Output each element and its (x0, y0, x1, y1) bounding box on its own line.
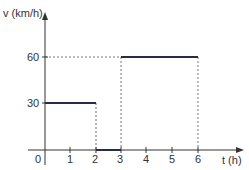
x-tick-4: 4 (143, 153, 149, 165)
x-axis-arrow-icon (236, 147, 244, 153)
y-axis-arrow-icon (42, 12, 48, 20)
x-tick-2: 2 (92, 153, 98, 165)
x-axis-label: t (h) (222, 154, 242, 166)
x-tick-1: 1 (67, 153, 73, 165)
y-tick-60: 60 (27, 51, 39, 63)
velocity-series (45, 57, 198, 150)
x-tick-5: 5 (169, 153, 175, 165)
x-tick-3: 3 (117, 153, 123, 165)
y-tick-30: 30 (27, 97, 39, 109)
velocity-time-chart: v (km/h) 60 30 0 1 2 3 4 5 6 t (h) (0, 0, 249, 170)
x-ticks (42, 57, 198, 153)
y-axis-label: v (km/h) (3, 7, 43, 19)
x-tick-6: 6 (195, 153, 201, 165)
origin-label: 0 (35, 153, 41, 165)
